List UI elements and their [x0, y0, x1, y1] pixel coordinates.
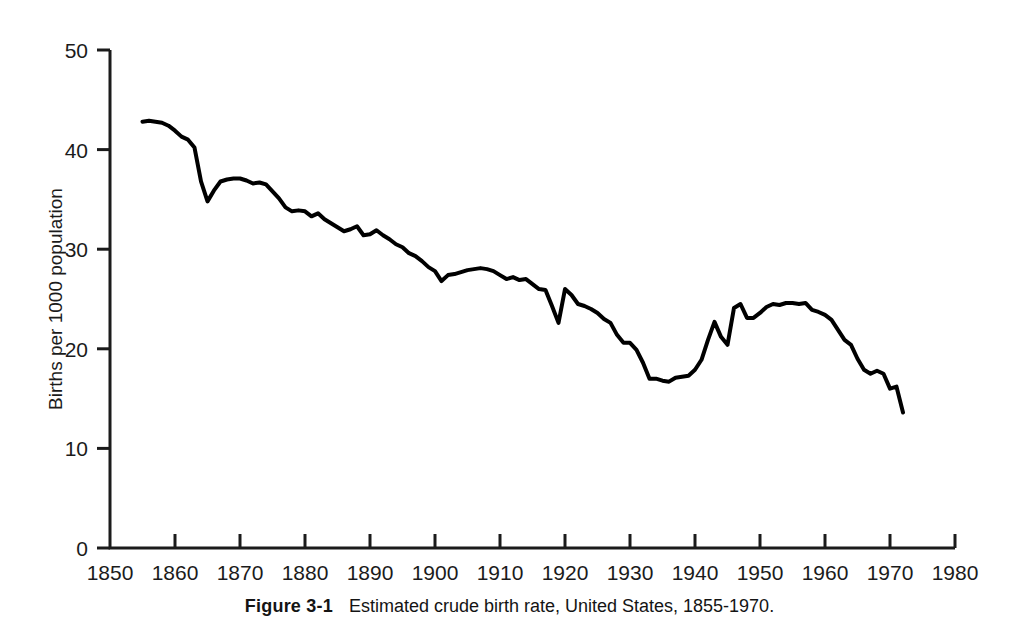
x-tick-label: 1900	[412, 561, 459, 584]
x-tick-label: 1930	[607, 561, 654, 584]
y-axis-ticks: 01020304050	[65, 39, 110, 560]
x-tick-label: 1920	[542, 561, 589, 584]
x-tick-label: 1980	[932, 561, 979, 584]
x-tick-label: 1870	[217, 561, 264, 584]
axis-frame	[110, 50, 955, 548]
y-tick-label: 20	[65, 338, 88, 361]
figure-container: 01020304050 1850186018701880189019001910…	[0, 0, 1019, 643]
x-tick-label: 1970	[867, 561, 914, 584]
x-axis-ticks: 1850186018701880189019001910192019301940…	[87, 534, 979, 584]
y-axis-title: Births per 1000 population	[45, 188, 66, 410]
x-tick-label: 1880	[282, 561, 329, 584]
figure-caption: Figure 3-1Estimated crude birth rate, Un…	[0, 596, 1019, 617]
y-tick-label: 40	[65, 139, 88, 162]
chart-canvas: 01020304050 1850186018701880189019001910…	[0, 0, 1019, 643]
y-tick-label: 10	[65, 437, 88, 460]
figure-caption-text: Estimated crude birth rate, United State…	[349, 596, 774, 616]
x-tick-label: 1890	[347, 561, 394, 584]
x-tick-label: 1940	[672, 561, 719, 584]
y-tick-label: 50	[65, 39, 88, 62]
x-tick-label: 1960	[802, 561, 849, 584]
x-tick-label: 1860	[152, 561, 199, 584]
y-tick-label: 30	[65, 238, 88, 261]
x-tick-label: 1910	[477, 561, 524, 584]
figure-number: Figure 3-1	[245, 596, 333, 616]
x-tick-label: 1950	[737, 561, 784, 584]
x-tick-label: 1850	[87, 561, 134, 584]
data-series-line	[143, 121, 904, 413]
y-tick-label: 0	[76, 537, 88, 560]
